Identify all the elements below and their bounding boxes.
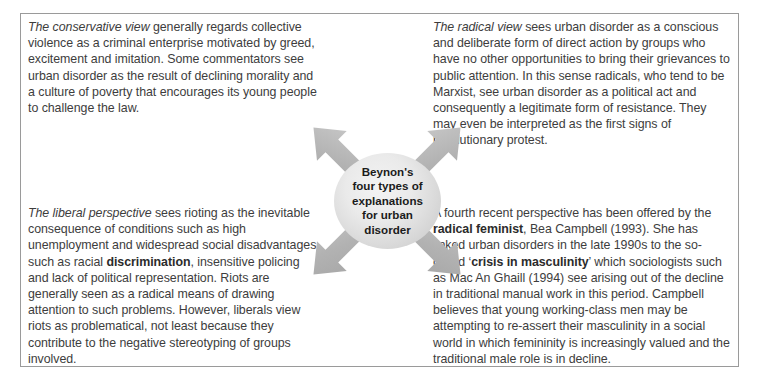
central-topic-line-4: for urban <box>352 208 423 223</box>
diagram-frame: Beynon's four types of explanations for … <box>20 13 739 367</box>
central-topic-line-3: explanations <box>352 194 423 209</box>
central-topic-line-1: Beynon's <box>352 165 423 180</box>
central-topic-node: Beynon's four types of explanations for … <box>334 153 441 249</box>
central-topic-line-2: four types of <box>352 179 423 194</box>
central-topic-label: Beynon's four types of explanations for … <box>346 165 429 238</box>
central-topic-line-5: disorder <box>352 223 423 238</box>
